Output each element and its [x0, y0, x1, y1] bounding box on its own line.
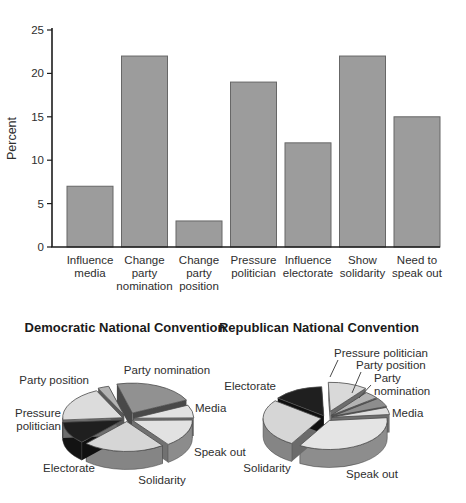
bar-influence-electorate: [285, 143, 331, 247]
x-category-label-change-party-position: Changepartyposition: [179, 254, 219, 292]
bar-change-party-position: [176, 221, 222, 247]
pie-label-party-position: Party position: [356, 359, 426, 371]
pie-label-party-nomination: Partynomination: [374, 372, 430, 397]
y-tick-label: 10: [31, 154, 44, 166]
bar-chart: 0510152025PercentInfluencemediaChangepar…: [5, 24, 443, 292]
rep-pie-title: Republican National Convention: [209, 320, 429, 335]
figure: 0510152025PercentInfluencemediaChangepar…: [0, 0, 466, 503]
dem-pie-title: Democratic National Convention: [15, 320, 235, 335]
bar-influence-media: [67, 186, 113, 247]
pie-label-media: Media: [195, 402, 227, 414]
bar-need-to-speak-out: [394, 117, 440, 247]
x-category-label-influence-media: Influencemedia: [67, 254, 114, 279]
charts-canvas: 0510152025PercentInfluencemediaChangepar…: [0, 0, 466, 503]
bar-show-solidarity: [340, 56, 386, 247]
x-category-label-show-solidarity: Showsolidarity: [340, 254, 386, 279]
pie-label-speak-out: Speak out: [194, 446, 247, 458]
y-axis-title: Percent: [5, 116, 19, 160]
dem-pie-chart: Party nominationMediaSpeak outSolidarity…: [15, 364, 247, 486]
pie-label-party-position: Party position: [19, 374, 89, 386]
pie-label-pressure-politician: Pressure politician: [334, 347, 428, 359]
x-category-label-need-to-speak-out: Need tospeak out: [392, 254, 443, 279]
pie-label-party-nomination: Party nomination: [124, 364, 210, 376]
x-category-label-influence-electorate: Influenceelectorate: [283, 254, 334, 279]
rep-pie-chart: Pressure politicianParty positionPartyno…: [224, 347, 430, 480]
pie-label-media: Media: [392, 407, 424, 419]
y-tick-label: 0: [38, 241, 44, 253]
pie-label-electorate: Electorate: [224, 380, 276, 392]
y-tick-label: 5: [38, 198, 44, 210]
pie-label-leader-pressure-politician: [330, 360, 338, 377]
bar-change-party-nomination: [122, 56, 168, 247]
pie-label-speak-out: Speak out: [346, 468, 399, 480]
x-category-label-change-party-nomination: Changepartynomination: [116, 254, 172, 292]
pie-label-pressure-politician: Pressurepolitician: [15, 407, 61, 432]
x-category-label-pressure-politician: Pressurepolitician: [230, 254, 276, 279]
pie-label-solidarity: Solidarity: [243, 462, 291, 474]
y-tick-label: 15: [31, 111, 44, 123]
bar-pressure-politician: [231, 82, 277, 247]
pie-label-solidarity: Solidarity: [138, 474, 186, 486]
y-tick-label: 20: [31, 67, 44, 79]
y-tick-label: 25: [31, 24, 44, 36]
pie-label-electorate: Electorate: [43, 462, 95, 474]
